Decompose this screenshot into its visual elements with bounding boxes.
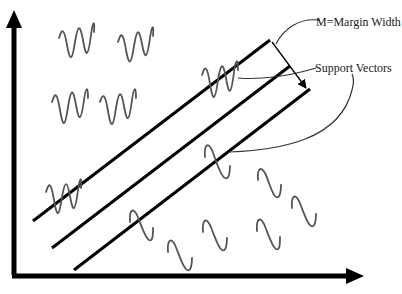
y-axis-arrowhead-icon	[6, 10, 22, 28]
margin-callout-curve	[276, 20, 320, 44]
callouts	[230, 20, 354, 152]
svm-diagram	[0, 0, 402, 294]
class-b-wave	[258, 169, 281, 197]
margin-width-arrow	[272, 42, 306, 88]
class-b-wave	[203, 221, 227, 251]
class-a-wave	[52, 89, 88, 123]
margin-width-label: M=Margin Width	[316, 16, 401, 28]
class-b-samples	[130, 145, 316, 270]
class-b-wave	[292, 197, 316, 227]
class-b-wave	[168, 241, 192, 271]
support-vectors-callout-lower	[230, 74, 354, 152]
support-vectors-label: Support Vectors	[315, 62, 392, 74]
class-b-wave	[257, 220, 280, 250]
class-a-wave	[59, 23, 94, 57]
class-a-wave	[100, 89, 136, 124]
class-a-wave	[118, 27, 153, 61]
x-axis-arrowhead-icon	[346, 268, 364, 284]
support-vectors-callout-upper	[238, 68, 316, 79]
class-a-samples	[46, 23, 238, 213]
